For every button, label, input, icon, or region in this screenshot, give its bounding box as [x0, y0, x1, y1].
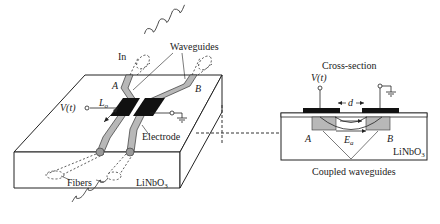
- coupler-diagram: In Waveguides A B V(t) Lo Electrode Fibe…: [0, 0, 440, 224]
- waveguides-label: Waveguides: [170, 41, 219, 52]
- voltage-label: V(t): [60, 102, 76, 114]
- cs-port-b-label: B: [387, 133, 393, 144]
- cs-voltage-label: V(t): [311, 72, 327, 84]
- voltage-terminal: [85, 106, 89, 110]
- cs-ground-icon: [382, 86, 396, 96]
- fibers-label: Fibers: [67, 177, 92, 188]
- waveguide-b: [366, 117, 390, 130]
- waveguide-a: [312, 117, 336, 130]
- port-b-label: B: [195, 83, 201, 94]
- electrode-label: Electrode: [142, 131, 181, 142]
- electrode-left: [303, 108, 340, 113]
- substrate-block: [14, 75, 222, 188]
- port-a-label: A: [111, 80, 119, 91]
- cross-section: Cross-section V(t): [281, 60, 427, 177]
- coupled-waveguides-caption: Coupled waveguides: [312, 166, 396, 177]
- cs-port-a-label: A: [304, 133, 312, 144]
- input-fibers: [130, 53, 214, 75]
- in-label: In: [118, 51, 126, 62]
- ground-terminal: [170, 111, 174, 115]
- electrode-right: [362, 108, 399, 113]
- cross-section-title: Cross-section: [322, 60, 376, 71]
- input-light-wave-icon: [143, 0, 186, 43]
